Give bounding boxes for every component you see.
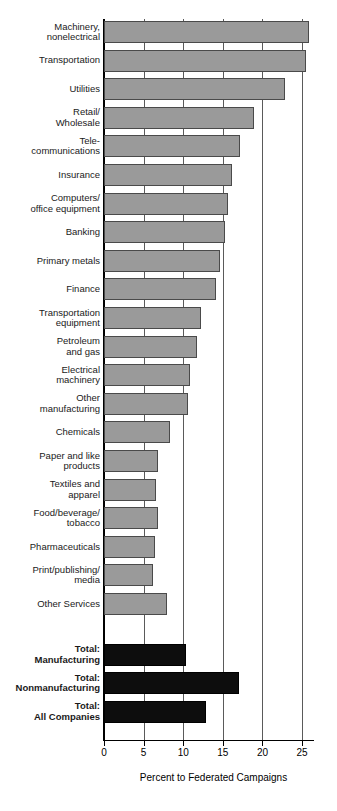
plot-area bbox=[104, 19, 314, 740]
bar-13[interactable] bbox=[104, 393, 188, 415]
bar-row bbox=[104, 135, 314, 157]
bar-row bbox=[104, 278, 314, 300]
bar-16[interactable] bbox=[104, 479, 156, 501]
bar-20[interactable] bbox=[104, 593, 167, 615]
category-label-4: Tele- communications bbox=[2, 136, 100, 157]
bar-12[interactable] bbox=[104, 364, 190, 386]
bar-19[interactable] bbox=[104, 564, 153, 586]
tick-0 bbox=[104, 740, 105, 746]
category-label-20: Other Services bbox=[2, 599, 100, 610]
tick-25 bbox=[302, 740, 303, 746]
category-label-15: Paper and like products bbox=[2, 451, 100, 472]
bar-row bbox=[104, 107, 314, 129]
bar-17[interactable] bbox=[104, 507, 158, 529]
bar-row bbox=[104, 250, 314, 272]
bar-0[interactable] bbox=[104, 21, 309, 43]
bar-6[interactable] bbox=[104, 193, 228, 215]
bar-15[interactable] bbox=[104, 450, 158, 472]
bar-4[interactable] bbox=[104, 135, 240, 157]
bar-21[interactable] bbox=[104, 644, 186, 666]
bar-row bbox=[104, 50, 314, 72]
bar-1[interactable] bbox=[104, 50, 306, 72]
tick-10 bbox=[183, 740, 184, 746]
bar-row bbox=[104, 593, 314, 615]
bar-row bbox=[104, 479, 314, 501]
tick-20 bbox=[262, 740, 263, 746]
category-label-22: Total: Nonmanufacturing bbox=[2, 673, 100, 694]
bar-row bbox=[104, 21, 314, 43]
bar-row bbox=[104, 307, 314, 329]
bar-3[interactable] bbox=[104, 107, 254, 129]
tick-5 bbox=[144, 740, 145, 746]
bar-row bbox=[104, 644, 314, 666]
bar-row bbox=[104, 536, 314, 558]
chart-page: Machinery, nonelectricalTransportationUt… bbox=[0, 0, 337, 811]
tick-label-20: 20 bbox=[257, 747, 268, 758]
bar-row bbox=[104, 672, 314, 694]
category-label-21: Total: Manufacturing bbox=[2, 644, 100, 665]
bar-row bbox=[104, 78, 314, 100]
category-label-10: Transportation equipment bbox=[2, 308, 100, 329]
tick-label-25: 25 bbox=[297, 747, 308, 758]
bar-row bbox=[104, 364, 314, 386]
bar-row bbox=[104, 336, 314, 358]
category-label-16: Textiles and apparel bbox=[2, 479, 100, 500]
bar-2[interactable] bbox=[104, 78, 285, 100]
bar-10[interactable] bbox=[104, 307, 201, 329]
tick-label-0: 0 bbox=[101, 747, 107, 758]
category-label-8: Primary metals bbox=[2, 256, 100, 267]
category-label-17: Food/beverage/ tobacco bbox=[2, 508, 100, 529]
category-label-6: Computers/ office equipment bbox=[2, 193, 100, 214]
bar-8[interactable] bbox=[104, 250, 220, 272]
bar-row bbox=[104, 564, 314, 586]
bar-23[interactable] bbox=[104, 701, 206, 723]
category-label-9: Finance bbox=[2, 284, 100, 295]
category-label-7: Banking bbox=[2, 227, 100, 238]
bar-5[interactable] bbox=[104, 164, 232, 186]
bar-14[interactable] bbox=[104, 421, 170, 443]
bar-row bbox=[104, 701, 314, 723]
bar-row bbox=[104, 507, 314, 529]
bar-11[interactable] bbox=[104, 336, 197, 358]
bar-row bbox=[104, 421, 314, 443]
bar-row bbox=[104, 450, 314, 472]
category-axis-labels: Machinery, nonelectricalTransportationUt… bbox=[0, 19, 100, 740]
category-label-23: Total: All Companies bbox=[2, 701, 100, 722]
category-label-14: Chemicals bbox=[2, 427, 100, 438]
category-label-12: Electrical machinery bbox=[2, 365, 100, 386]
category-label-3: Retail/ Wholesale bbox=[2, 107, 100, 128]
tick-label-10: 10 bbox=[178, 747, 189, 758]
bar-18[interactable] bbox=[104, 536, 155, 558]
bar-9[interactable] bbox=[104, 278, 216, 300]
category-label-19: Print/publishing/ media bbox=[2, 565, 100, 586]
tick-label-5: 5 bbox=[141, 747, 147, 758]
category-label-1: Transportation bbox=[2, 55, 100, 66]
category-label-2: Utilities bbox=[2, 84, 100, 95]
category-label-11: Petroleum and gas bbox=[2, 336, 100, 357]
category-label-18: Pharmaceuticals bbox=[2, 542, 100, 553]
category-label-5: Insurance bbox=[2, 170, 100, 181]
bar-row bbox=[104, 193, 314, 215]
bar-row bbox=[104, 221, 314, 243]
bar-7[interactable] bbox=[104, 221, 225, 243]
tick-label-15: 15 bbox=[217, 747, 228, 758]
bar-row bbox=[104, 393, 314, 415]
bar-row bbox=[104, 164, 314, 186]
bar-22[interactable] bbox=[104, 672, 239, 694]
tick-15 bbox=[223, 740, 224, 746]
x-axis-title: Percent to Federated Campaigns bbox=[0, 772, 337, 783]
category-label-0: Machinery, nonelectrical bbox=[2, 22, 100, 43]
x-axis-ticks: 0510152025 bbox=[104, 740, 314, 764]
category-label-13: Other manufacturing bbox=[2, 393, 100, 414]
